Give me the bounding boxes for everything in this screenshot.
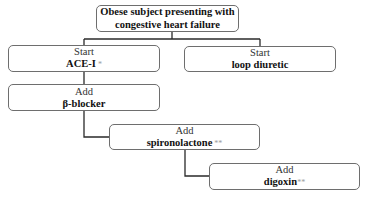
node-drug-row: spironolactone** [147, 137, 223, 150]
footnote-marker: * [98, 60, 102, 69]
node-drug: ACE-I [66, 58, 96, 69]
node-action: Start [250, 47, 270, 59]
node-drug: spironolactone [147, 137, 213, 148]
node-spironolactone: Add spironolactone** [109, 124, 260, 150]
node-digoxin: Add digoxin** [209, 163, 360, 190]
node-drug-row: digoxin** [264, 176, 305, 189]
node-action: Start [74, 46, 94, 58]
node-action: Add [175, 125, 193, 137]
footnote-marker: ** [297, 178, 305, 187]
footnote-marker: ** [214, 139, 222, 148]
node-beta-blocker: Add β-blocker [8, 84, 160, 111]
connector-spiro-to-digoxin [185, 150, 209, 176]
node-drug-row: ACE-I* [66, 58, 102, 71]
node-action: Add [75, 86, 93, 98]
node-action: Add [275, 164, 293, 176]
node-drug: digoxin [264, 176, 297, 187]
root-line-2: congestive heart failure [115, 19, 220, 32]
root-line-1: Obese subject presenting with [100, 6, 234, 19]
root-node: Obese subject presenting with congestive… [96, 5, 239, 32]
node-loop-diuretic: Start loop diuretic [184, 46, 336, 72]
node-drug: β-blocker [63, 98, 106, 110]
node-ace-i: Start ACE-I* [8, 45, 160, 72]
node-drug: loop diuretic [232, 59, 289, 71]
connector-beta-to-spiro [84, 111, 109, 137]
